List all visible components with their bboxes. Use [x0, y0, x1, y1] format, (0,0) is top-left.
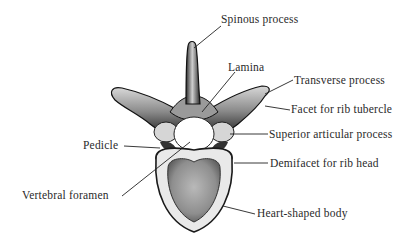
label-demifacet-rib-head: Demifacet for rib head — [270, 158, 379, 170]
label-heart-shaped-body: Heart-shaped body — [257, 208, 348, 220]
vertebral-body — [156, 148, 232, 232]
label-facet-rib-tubercle: Facet for rib tubercle — [291, 104, 392, 116]
vertebra-diagram — [0, 0, 419, 244]
label-superior-articular-process: Superior articular process — [269, 129, 392, 141]
label-lamina: Lamina — [228, 62, 264, 74]
label-spinous-process: Spinous process — [221, 14, 298, 26]
label-pedicle: Pedicle — [83, 140, 118, 152]
label-transverse-process: Transverse process — [294, 75, 385, 87]
vertebral-foramen-opening — [174, 117, 214, 151]
label-vertebral-foramen: Vertebral foramen — [22, 190, 109, 202]
